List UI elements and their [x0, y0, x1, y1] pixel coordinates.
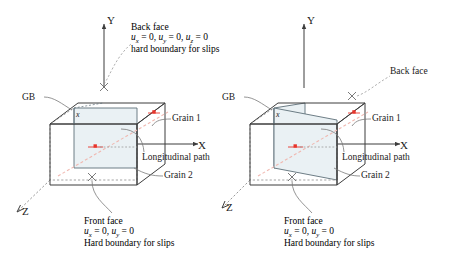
longitudinal-path-label-right: Longitudinal path — [342, 152, 410, 163]
back-face-title-right: Back face — [390, 66, 428, 77]
front-face-title-left: Front face — [84, 216, 175, 226]
axis-label-z-left: Z — [22, 205, 29, 218]
back-face-note-left: hard boundary for slips — [131, 44, 219, 54]
axis-label-x-right: X — [400, 139, 408, 152]
front-face-note-right: Hard boundary for slips — [284, 238, 375, 248]
axis-label-y-right: Y — [307, 14, 315, 27]
grain1-marker-left — [148, 110, 160, 113]
back-face-annotation-left: Back face ux = 0, uy = 0, uz = 0 hard bo… — [131, 22, 219, 54]
leader-back-face-right — [357, 76, 390, 96]
longitudinal-path-label-left: Longitudinal path — [142, 152, 210, 163]
grain1-marker-right — [348, 110, 360, 113]
diagram-canvas — [0, 0, 452, 270]
front-face-annotation-right: Front face ux = 0, uy = 0 Hard boundary … — [284, 216, 375, 248]
front-face-annotation-left: Front face ux = 0, uy = 0 Hard boundary … — [84, 216, 175, 248]
gb-label-left: GB — [22, 92, 35, 103]
leader-front-face-left — [92, 181, 112, 213]
axis-label-z-right: Z — [226, 201, 233, 214]
axis-label-y-left: Y — [107, 14, 115, 27]
gb-edge-diag-left — [74, 103, 103, 108]
grain1-label-left: Grain 1 — [172, 113, 201, 124]
front-face-equations-right: ux = 0, uy = 0 — [284, 226, 375, 238]
leader-back-face-left — [104, 44, 131, 84]
gb-plane-right-face — [274, 108, 337, 180]
front-face-equations-left: ux = 0, uy = 0 — [84, 226, 175, 238]
leader-front-face-right — [292, 181, 312, 213]
figure-root: Y X Z GB x Back face ux = 0, uy = 0, uz … — [0, 0, 452, 270]
gb-mark-label-right: x — [276, 110, 280, 119]
x-mark-back-right — [348, 92, 356, 100]
leader-gb-left — [44, 97, 72, 110]
front-face-note-left: Hard boundary for slips — [84, 238, 175, 248]
leader-gb-right — [244, 97, 272, 110]
grain2-label-right: Grain 2 — [361, 170, 390, 181]
gb-plane-left — [74, 108, 137, 168]
leader-grain2-right — [334, 168, 360, 176]
grain1-label-right: Grain 1 — [372, 113, 401, 124]
back-face-equations-left: ux = 0, uy = 0, uz = 0 — [131, 32, 219, 44]
gb-label-right: GB — [222, 92, 235, 103]
gb-mark-label-left: x — [76, 110, 80, 119]
grain2-label-left: Grain 2 — [164, 170, 193, 181]
axis-label-x-left: X — [198, 139, 206, 152]
front-face-title-right: Front face — [284, 216, 375, 226]
back-face-title-left: Back face — [131, 22, 219, 32]
